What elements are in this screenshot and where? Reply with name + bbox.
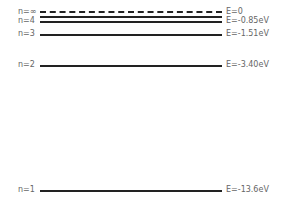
level-line xyxy=(40,21,222,23)
level-energy-label: E=-3.40eV xyxy=(226,61,269,69)
level-energy-label: E=-13.6eV xyxy=(226,186,269,194)
level-n-label: n=1 xyxy=(18,186,35,194)
level-energy-label: E=-1.51eV xyxy=(226,30,269,38)
level-line xyxy=(40,190,222,192)
level-line xyxy=(40,65,222,67)
level-n-label: n=4 xyxy=(18,17,35,25)
level-line-dashed xyxy=(40,11,222,13)
level-n-label: n=2 xyxy=(18,61,35,69)
level-line xyxy=(40,16,222,18)
level-line xyxy=(40,34,222,36)
level-energy-label: E=0 xyxy=(226,8,243,16)
level-n-label: n=3 xyxy=(18,30,35,38)
level-n-label: n=∞ xyxy=(18,8,36,16)
level-energy-label: E=-0.85eV xyxy=(226,17,269,25)
